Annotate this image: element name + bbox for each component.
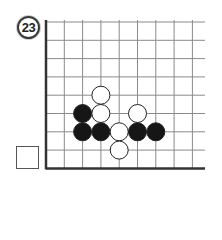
white-stone — [92, 105, 110, 123]
white-stone — [110, 141, 128, 159]
black-stone — [129, 123, 147, 141]
white-stone — [110, 123, 128, 141]
white-stone — [129, 105, 147, 123]
black-stone — [147, 123, 165, 141]
black-stone — [74, 105, 92, 123]
answer-box[interactable] — [16, 146, 39, 169]
white-stone — [92, 86, 110, 104]
black-stone — [74, 123, 92, 141]
black-stone — [92, 123, 110, 141]
